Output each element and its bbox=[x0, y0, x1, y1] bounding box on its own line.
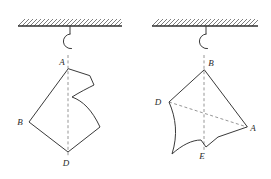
ceiling-hatch-left bbox=[18, 19, 125, 26]
vertex-label-b-left: B bbox=[17, 117, 23, 127]
vertex-label-b-right: B bbox=[208, 58, 214, 68]
vertex-label-e-right: E bbox=[198, 151, 205, 161]
ceiling-hatch-right bbox=[152, 19, 259, 26]
vertex-label-d-right: D bbox=[154, 97, 162, 107]
hatch-strokes-right bbox=[152, 19, 259, 26]
vertex-label-a-left: A bbox=[58, 57, 65, 67]
hook-loop-right bbox=[199, 34, 207, 49]
hook-right bbox=[199, 26, 207, 49]
diagonal-dashed-right bbox=[169, 102, 247, 127]
shape-outline-left bbox=[29, 69, 100, 152]
left-panel: A B D bbox=[17, 19, 125, 168]
vertex-label-d-left: D bbox=[62, 158, 70, 168]
right-panel: B D A E bbox=[152, 19, 259, 161]
hatch-strokes-left bbox=[18, 19, 125, 26]
vertex-label-a-right: A bbox=[249, 123, 256, 133]
shape-outline-right bbox=[169, 70, 247, 154]
geometry-figure-canvas: A B D bbox=[0, 0, 271, 179]
hook-loop-left bbox=[63, 34, 71, 49]
hook-left bbox=[63, 26, 71, 49]
